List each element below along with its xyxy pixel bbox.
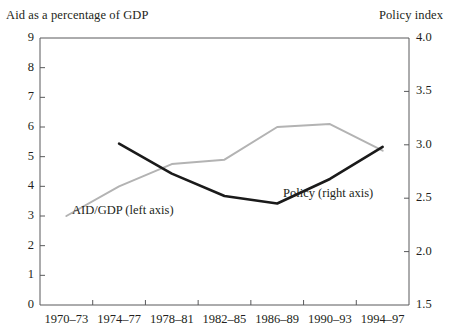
plot-area — [0, 0, 449, 335]
chart-figure: Aid as a percentage of GDP Policy index … — [0, 0, 449, 335]
axis-frame — [40, 38, 409, 305]
series-label-aid-gdp: AID/GDP (left axis) — [72, 203, 174, 218]
series-label-policy: Policy (right axis) — [283, 186, 373, 201]
